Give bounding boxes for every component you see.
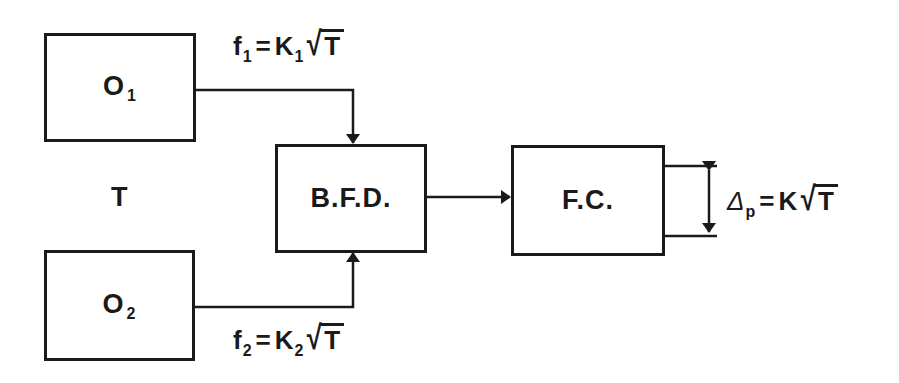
block-o2-label: O2 — [103, 289, 137, 323]
sqrt-icon: √T — [305, 322, 344, 353]
block-bfd: B.F.D. — [275, 144, 427, 253]
equation-f1: f1 = K1 √T — [233, 28, 344, 59]
block-fc-label: F.C. — [562, 185, 614, 216]
sqrt-icon: √T — [305, 28, 344, 59]
block-o1-label: O1 — [103, 71, 137, 105]
sqrt-icon: √T — [799, 183, 838, 214]
equation-f2: f2 = K2 √T — [233, 322, 344, 353]
temperature-label: T — [111, 184, 128, 211]
block-o2: O2 — [44, 250, 195, 361]
block-o1: O1 — [44, 33, 196, 142]
block-bfd-label: B.F.D. — [310, 183, 391, 214]
block-fc: F.C. — [511, 145, 665, 256]
connector-o2-bfd — [194, 253, 353, 307]
equation-delta-p: Δp = K √T — [727, 183, 838, 214]
connector-o1-bfd — [195, 90, 353, 143]
